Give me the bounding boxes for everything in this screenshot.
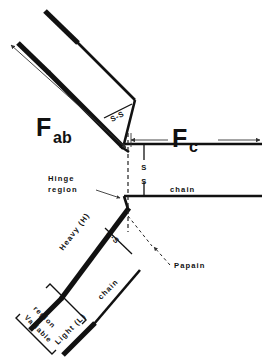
upper-light-variable-region	[18, 43, 49, 73]
lower-heavy-chain	[30, 196, 262, 330]
lower-heavy-constant-region	[61, 208, 129, 299]
hinge-s-top-label: S	[141, 163, 147, 172]
heavy-chain-label: Heavy (H)	[57, 211, 91, 252]
fc-label-main: F	[172, 124, 187, 152]
papain-cut-extension	[128, 216, 152, 246]
hinge-disulfide-bridge: S S	[139, 145, 150, 196]
hinge-region-leader	[96, 190, 120, 198]
papain-pointer	[128, 216, 170, 265]
fab-label-main: F	[36, 113, 51, 141]
upper-heavy-variable-region	[45, 11, 78, 43]
upper-heavy-constant-region	[77, 42, 135, 100]
hinge-region-label-group: Hinge region	[48, 174, 120, 198]
upper-heavy-chain	[45, 11, 262, 144]
hinge-s-bottom-label: S	[141, 177, 147, 186]
fc-label-subscript: c	[189, 138, 198, 155]
lower-disulfide-label: S-S	[105, 229, 122, 246]
fc-label-group: F c	[172, 124, 198, 155]
hinge-region-label-line2: region	[48, 185, 78, 194]
fab-label-subscript: ab	[53, 129, 72, 146]
papain-leader-line	[154, 247, 170, 265]
antibody-diagram-canvas: S S Papain F ab F c Hinge	[0, 0, 264, 361]
upper-disulfide-label: S-S	[109, 109, 126, 124]
hinge-region-label-line1: Hinge	[48, 174, 75, 183]
papain-label: Papain	[174, 261, 206, 270]
fab-label-group: F ab	[36, 113, 72, 146]
immunoglobulin-structure-svg: S S Papain F ab F c Hinge	[0, 0, 264, 361]
fc-chain-label: chain	[170, 185, 195, 194]
